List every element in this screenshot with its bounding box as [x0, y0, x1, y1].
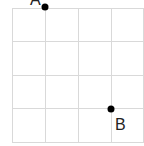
point-b-label: B — [115, 116, 126, 133]
grid-diagram: ) A B — [0, 0, 144, 146]
point-b: B — [108, 106, 126, 134]
point-a-label: A — [30, 0, 41, 8]
point-a-marker — [42, 4, 49, 11]
point-b-marker — [108, 106, 115, 113]
